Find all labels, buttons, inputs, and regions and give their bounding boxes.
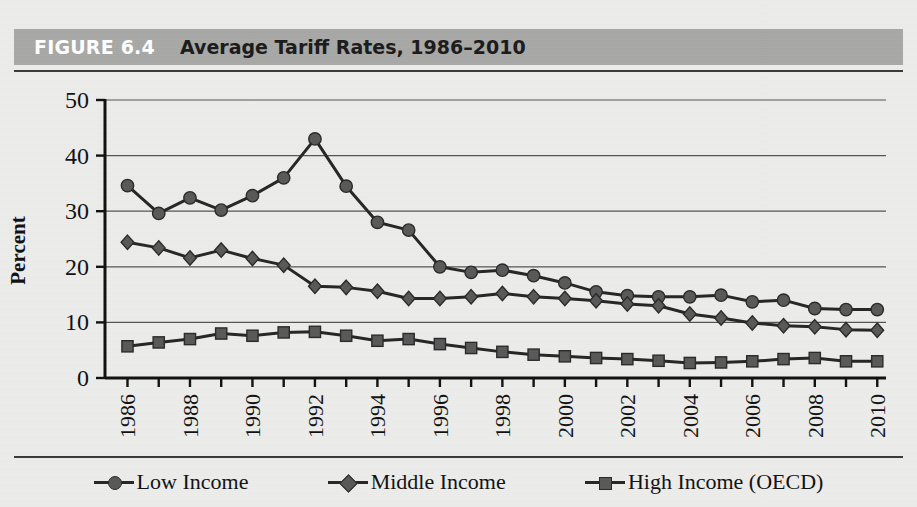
y-axis-tick-label: 0: [77, 365, 89, 391]
data-point-low-income: [215, 204, 227, 216]
y-axis-tick-label: 10: [65, 309, 89, 335]
x-axis-tick-label: 1996: [428, 394, 453, 438]
data-point-low-income: [153, 207, 165, 219]
data-point-middle-income: [246, 251, 259, 265]
x-axis-tick-label: 2008: [803, 394, 828, 438]
x-axis-tick-label: 2010: [865, 394, 890, 438]
data-point-low-income: [684, 291, 696, 303]
legend-item-middle-income[interactable]: Middle Income: [328, 469, 506, 495]
data-point-high-income-oecd: [341, 330, 352, 341]
data-point-middle-income: [215, 243, 228, 257]
x-axis-tick-label: 1988: [178, 394, 203, 438]
data-point-middle-income: [465, 290, 478, 304]
data-point-middle-income: [152, 241, 165, 255]
data-point-middle-income: [496, 286, 509, 300]
x-axis-tick-label: 1994: [365, 394, 390, 438]
series-line-low-income: [127, 139, 877, 310]
data-point-middle-income: [746, 316, 759, 330]
y-axis-tick-label: 30: [65, 198, 89, 224]
data-point-high-income-oecd: [403, 333, 414, 344]
data-point-middle-income: [683, 307, 696, 321]
figure-container: FIGURE 6.4 Average Tariff Rates, 1986–20…: [0, 0, 917, 507]
figure-header-band: FIGURE 6.4 Average Tariff Rates, 1986–20…: [14, 29, 903, 65]
y-axis-tick-label: 20: [65, 254, 89, 280]
data-point-low-income: [246, 189, 258, 201]
x-axis-tick-label: 2000: [553, 394, 578, 438]
y-axis-title: Percent: [6, 161, 31, 341]
data-point-high-income-oecd: [122, 341, 133, 352]
y-axis-tick-label: 50: [65, 87, 89, 113]
data-point-low-income: [559, 277, 571, 289]
data-point-high-income-oecd: [653, 355, 664, 366]
data-point-middle-income: [277, 258, 290, 272]
data-point-high-income-oecd: [590, 352, 601, 363]
legend-label: Low Income: [137, 469, 249, 495]
x-axis-tick-label: 1986: [115, 394, 140, 438]
data-point-low-income: [121, 179, 133, 191]
data-point-low-income: [371, 216, 383, 228]
data-point-high-income-oecd: [309, 326, 320, 337]
legend-label: Middle Income: [371, 469, 506, 495]
legend-marker-circle-icon: [94, 473, 134, 491]
data-point-middle-income: [777, 319, 790, 333]
data-point-low-income: [309, 133, 321, 145]
data-point-low-income: [277, 172, 289, 184]
data-point-high-income-oecd: [872, 356, 883, 367]
y-axis-tick-label: 40: [65, 143, 89, 169]
data-point-middle-income: [184, 251, 197, 265]
data-point-low-income: [527, 269, 539, 281]
footer-divider: [14, 456, 903, 458]
data-point-high-income-oecd: [684, 357, 695, 368]
data-point-middle-income: [840, 322, 853, 336]
data-point-high-income-oecd: [528, 349, 539, 360]
data-point-middle-income: [402, 291, 415, 305]
data-point-high-income-oecd: [184, 333, 195, 344]
data-point-low-income: [715, 289, 727, 301]
x-axis-tick-label: 2006: [740, 394, 765, 438]
legend-marker-square-icon: [585, 473, 625, 491]
data-point-middle-income: [527, 290, 540, 304]
chart-legend: Low Income Middle Income High Income (OE…: [14, 462, 903, 502]
data-point-high-income-oecd: [434, 338, 445, 349]
x-axis-tick-label: 1990: [240, 394, 265, 438]
data-point-low-income: [496, 264, 508, 276]
data-point-high-income-oecd: [247, 330, 258, 341]
data-point-high-income-oecd: [278, 327, 289, 338]
x-axis-tick-label: 1992: [303, 394, 328, 438]
data-point-high-income-oecd: [497, 346, 508, 357]
legend-item-high-income[interactable]: High Income (OECD): [585, 469, 824, 495]
legend-marker-diamond-icon: [328, 473, 368, 491]
data-point-middle-income: [433, 291, 446, 305]
data-point-low-income: [434, 261, 446, 273]
legend-label: High Income (OECD): [628, 469, 824, 495]
line-chart: 0102030405019861988199019921994199619982…: [0, 78, 917, 458]
data-point-middle-income: [871, 323, 884, 337]
x-axis-tick-label: 2002: [615, 394, 640, 438]
data-point-low-income: [340, 180, 352, 192]
data-point-low-income: [465, 266, 477, 278]
figure-number-label: FIGURE 6.4: [34, 36, 155, 58]
data-point-middle-income: [371, 284, 384, 298]
data-point-high-income-oecd: [559, 351, 570, 362]
data-point-low-income: [746, 296, 758, 308]
data-point-low-income: [871, 303, 883, 315]
data-point-high-income-oecd: [216, 328, 227, 339]
data-point-high-income-oecd: [840, 356, 851, 367]
data-point-high-income-oecd: [715, 357, 726, 368]
data-point-high-income-oecd: [809, 352, 820, 363]
data-point-low-income: [840, 303, 852, 315]
data-point-low-income: [809, 302, 821, 314]
figure-title: Average Tariff Rates, 1986–2010: [180, 36, 526, 58]
data-point-low-income: [777, 294, 789, 306]
header-divider: [14, 70, 903, 72]
data-point-high-income-oecd: [747, 356, 758, 367]
data-point-middle-income: [309, 279, 322, 293]
data-point-middle-income: [121, 235, 134, 249]
data-point-high-income-oecd: [372, 335, 383, 346]
x-axis-tick-label: 2004: [678, 394, 703, 438]
data-point-middle-income: [340, 280, 353, 294]
data-point-low-income: [402, 224, 414, 236]
x-axis-tick-label: 1998: [490, 394, 515, 438]
legend-item-low-income[interactable]: Low Income: [94, 469, 249, 495]
data-point-low-income: [184, 192, 196, 204]
